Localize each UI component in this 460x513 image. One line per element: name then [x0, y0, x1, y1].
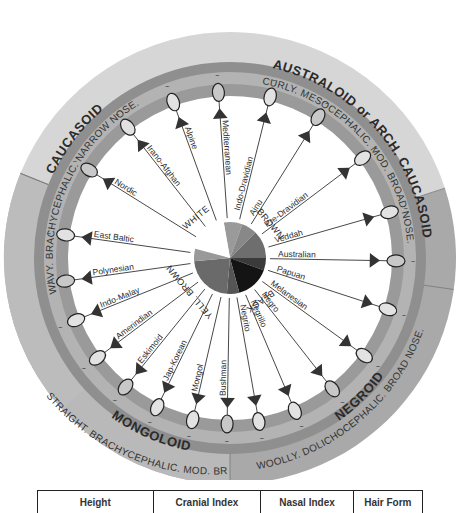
- head-shape-icon: [387, 255, 405, 267]
- header-cranial-index: Cranial Index: [153, 491, 261, 513]
- hair-form-icon: ~: [402, 312, 406, 319]
- hair-form-icon: ~: [165, 83, 169, 90]
- hair-form-icon: ~: [411, 258, 415, 265]
- race-label: Bushman: [218, 360, 229, 396]
- hair-form-icon: ~: [113, 397, 117, 404]
- header-nasal-index: Nasal Index: [261, 491, 353, 513]
- head-shape-icon: [221, 415, 233, 433]
- race-classification-wheel: ~Mediterranean~Alpine~Irano-Afghan~Nordi…: [0, 0, 460, 480]
- hair-form-icon: ~: [215, 72, 219, 79]
- race-label: Australian: [278, 249, 316, 260]
- hair-form-icon: ~: [82, 365, 86, 372]
- header-height: Height: [38, 491, 154, 513]
- hair-form-icon: ~: [58, 324, 62, 331]
- hair-form-icon: ~: [225, 438, 229, 445]
- hair-form-icon: ~: [299, 423, 303, 430]
- trait-table-header: Height Cranial Index Nasal Index Hair Fo…: [37, 490, 423, 513]
- hair-form-icon: ~: [260, 435, 264, 442]
- hair-form-icon: ~: [376, 363, 380, 370]
- header-hair-form: Hair Form: [353, 491, 422, 513]
